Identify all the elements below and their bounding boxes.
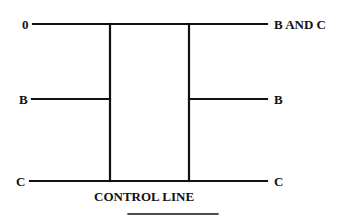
input-label-top: 0 — [22, 17, 29, 32]
gate-diagram: 0 B C B AND C B C CONTROL LINE — [0, 0, 354, 223]
output-label-middle: B — [274, 92, 283, 107]
input-label-bottom: C — [16, 174, 25, 189]
control-line-label: CONTROL LINE — [94, 189, 194, 204]
output-label-top: B AND C — [274, 17, 326, 32]
output-label-bottom: C — [274, 174, 283, 189]
input-label-middle: B — [19, 92, 28, 107]
